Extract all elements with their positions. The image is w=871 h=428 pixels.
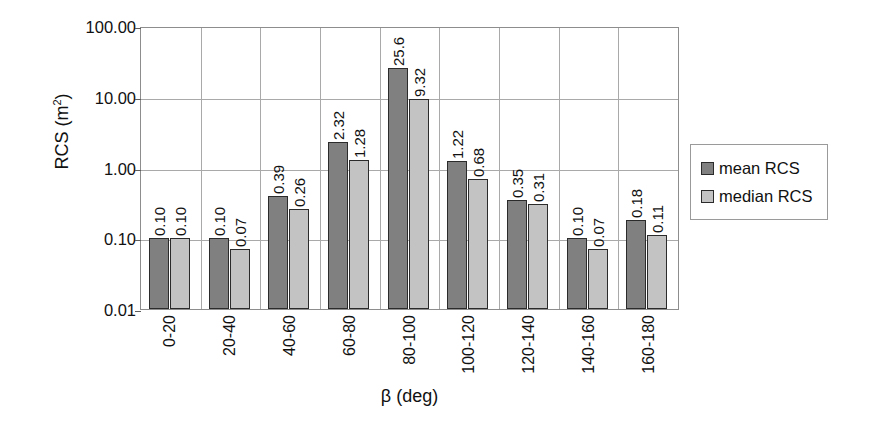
- bar-mean-rcs[interactable]: 0.18: [626, 220, 646, 309]
- bar-value-label: 0.68: [471, 148, 486, 177]
- y-axis-tick-label: 100.00: [52, 18, 136, 37]
- bar-group: 0.100.10: [141, 28, 201, 309]
- y-axis-tick-label: 1.00: [52, 159, 136, 178]
- x-axis-tick-label: 160-180: [641, 315, 657, 374]
- bar-group: 0.390.26: [260, 28, 320, 309]
- x-axis-title: β (deg): [140, 386, 679, 407]
- x-axis-tick-label: 140-160: [581, 315, 597, 374]
- x-axis-tick-label: 80-100: [402, 315, 418, 365]
- bar-mean-rcs[interactable]: 0.35: [507, 200, 527, 309]
- chart-legend: mean RCSmedian RCS: [690, 144, 828, 220]
- plot-area: 0.100.100.100.070.390.262.321.2825.69.32…: [140, 27, 679, 310]
- x-axis-tick-label: 40-60: [282, 315, 298, 356]
- x-axis-tick-label: 20-40: [222, 315, 238, 356]
- bar-median-rcs[interactable]: 0.26: [289, 209, 309, 309]
- bar-median-rcs[interactable]: 0.07: [588, 249, 608, 309]
- bar-mean-rcs[interactable]: 2.32: [328, 142, 348, 309]
- bar-value-label: 0.10: [211, 207, 226, 236]
- x-axis-tick-label: 60-80: [342, 315, 358, 356]
- x-axis-tick-cell: 140-160: [559, 313, 619, 383]
- bar-mean-rcs[interactable]: 0.10: [149, 238, 169, 309]
- bar-groups: 0.100.100.100.070.390.262.321.2825.69.32…: [141, 28, 678, 309]
- bar-group: 0.100.07: [559, 28, 619, 309]
- bar-value-label: 0.35: [510, 169, 525, 198]
- x-axis-tick-cell: 0-20: [140, 313, 200, 383]
- bar-median-rcs[interactable]: 1.28: [349, 160, 369, 309]
- bar-mean-rcs[interactable]: 0.10: [567, 238, 587, 309]
- legend-item[interactable]: median RCS: [701, 182, 813, 210]
- bar-median-rcs[interactable]: 0.68: [468, 179, 488, 309]
- x-axis-tick-cell: 20-40: [200, 313, 260, 383]
- bar-group: 0.350.31: [499, 28, 559, 309]
- bar-value-label: 0.10: [173, 207, 188, 236]
- x-axis-tick-cell: 100-120: [439, 313, 499, 383]
- bar-median-rcs[interactable]: 0.10: [170, 238, 190, 309]
- y-axis-tick-labels: 100.0010.001.000.100.01: [52, 0, 136, 428]
- legend-item[interactable]: mean RCS: [701, 154, 813, 182]
- bar-mean-rcs[interactable]: 0.39: [268, 196, 288, 309]
- x-axis-tick-cell: 120-140: [499, 313, 559, 383]
- bar-value-label: 0.07: [232, 218, 247, 247]
- bar-value-label: 1.28: [352, 129, 367, 158]
- x-axis-tick-cell: 80-100: [380, 313, 440, 383]
- rcs-bar-chart: RCS (m2) 100.0010.001.000.100.01 0.100.1…: [0, 0, 871, 428]
- bar-mean-rcs[interactable]: 0.10: [209, 238, 229, 309]
- bar-value-label: 25.6: [390, 37, 405, 66]
- bar-group: 25.69.32: [380, 28, 440, 309]
- bar-value-label: 0.18: [629, 189, 644, 218]
- bar-value-label: 0.10: [569, 207, 584, 236]
- bar-mean-rcs[interactable]: 25.6: [388, 68, 408, 309]
- x-axis-tick-cell: 60-80: [320, 313, 380, 383]
- x-axis-tick-label: 100-120: [461, 315, 477, 374]
- x-axis-tick-cell: 40-60: [260, 313, 320, 383]
- x-axis-tick-label: 0-20: [162, 315, 178, 347]
- y-axis-tick-label: 0.10: [52, 230, 136, 249]
- bar-mean-rcs[interactable]: 1.22: [447, 161, 467, 309]
- bar-value-label: 1.22: [450, 130, 465, 159]
- y-axis-tick-mark: [135, 311, 141, 312]
- bar-value-label: 9.32: [411, 68, 426, 97]
- y-axis-tick-label: 0.01: [52, 301, 136, 320]
- bar-group: 0.100.07: [201, 28, 261, 309]
- bar-median-rcs[interactable]: 0.07: [230, 249, 250, 309]
- y-axis-tick-label: 10.00: [52, 88, 136, 107]
- bar-value-label: 0.39: [271, 165, 286, 194]
- legend-label: median RCS: [719, 187, 813, 206]
- bar-group: 1.220.68: [439, 28, 499, 309]
- x-axis-tick-label: 120-140: [521, 315, 537, 374]
- bar-value-label: 0.26: [292, 178, 307, 207]
- bar-value-label: 0.10: [152, 207, 167, 236]
- bar-value-label: 2.32: [331, 110, 346, 139]
- bar-median-rcs[interactable]: 0.31: [528, 204, 548, 310]
- legend-swatch-icon: [701, 162, 714, 175]
- legend-swatch-icon: [701, 190, 714, 203]
- bar-median-rcs[interactable]: 9.32: [409, 99, 429, 309]
- x-axis-tick-cell: 160-180: [619, 313, 679, 383]
- bar-value-label: 0.11: [650, 205, 665, 233]
- bar-group: 0.180.11: [618, 28, 678, 309]
- legend-label: mean RCS: [719, 159, 800, 178]
- bar-group: 2.321.28: [320, 28, 380, 309]
- bar-value-label: 0.07: [590, 218, 605, 247]
- bar-value-label: 0.31: [531, 172, 546, 201]
- bar-median-rcs[interactable]: 0.11: [647, 235, 667, 309]
- x-axis-tick-labels: 0-2020-4040-6060-8080-100100-120120-1401…: [140, 313, 679, 383]
